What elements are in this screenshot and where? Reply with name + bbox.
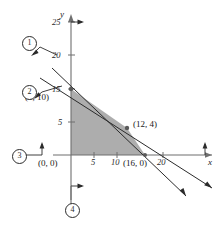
y-tick-label-5: 5 [58,118,62,127]
x-tick-label-10: 10 [111,158,120,167]
y-tick-label-15: 15 [52,85,61,94]
constraint-marker-2: 2 [22,85,37,100]
y-tick-label-20: 20 [52,51,61,60]
marker-4-leader [71,184,84,200]
constraint-marker-1: 1 [22,36,37,51]
y-axis-label: y [60,10,64,19]
constraint-marker-4: 4 [65,203,80,218]
graph-figure: y x 25 20 15 5 5 10 20 (0, 10) (12, 4) (… [0,0,223,228]
constraint-line-2 [40,78,212,188]
vertex-label-16-0: (16, 0) [123,159,147,168]
constraint-line-2-end-arrow [204,182,212,189]
y-axis-arrowhead [68,14,74,22]
x-tick-label-20: 20 [157,158,166,167]
vertex-label-12-4: (12, 4) [133,120,157,129]
x-tick-label-5: 5 [91,158,95,167]
constraint-marker-3: 3 [12,149,27,164]
vertex-label-0-0: (0, 0) [38,159,58,168]
marker-3-leader [25,142,44,155]
graph-canvas [0,0,223,228]
constraint-line-1-end-arrow [180,188,186,196]
x-axis-label: x [208,158,212,167]
y-tick-label-25: 25 [52,18,61,27]
